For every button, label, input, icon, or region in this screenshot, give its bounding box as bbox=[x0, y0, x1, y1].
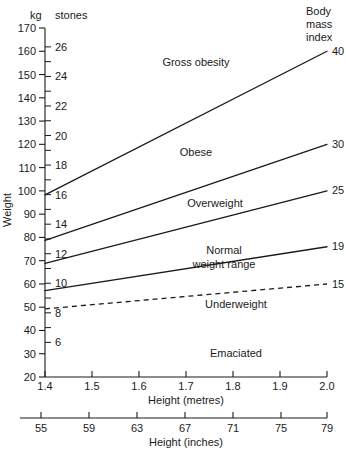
bmi-curve-15 bbox=[45, 284, 327, 309]
x-axis-inches-ticks bbox=[41, 412, 327, 418]
bmi-curve-30 bbox=[45, 144, 327, 240]
bmi-curve-40 bbox=[45, 51, 327, 195]
x-tick-label-inches: 75 bbox=[275, 422, 287, 434]
x-axis-metres-ticks bbox=[45, 371, 327, 377]
x-tick-label-inches: 71 bbox=[227, 422, 239, 434]
y-axis-stones-labels: 6 8 10 12 14 16 18 20 22 24 26 bbox=[55, 41, 67, 349]
bmi-end-label-15: 15 bbox=[332, 278, 344, 290]
stones-tick-label: 6 bbox=[55, 336, 61, 348]
y-tick-label: 40 bbox=[24, 324, 36, 336]
y-tick-label: 90 bbox=[24, 208, 36, 220]
x-tick-label-inches: 55 bbox=[35, 422, 47, 434]
x-tick-label-inches: 79 bbox=[321, 422, 333, 434]
y-tick-label: 120 bbox=[18, 138, 36, 150]
unit-label-kg: kg bbox=[30, 9, 42, 21]
y-tick-label: 110 bbox=[18, 162, 36, 174]
bmi-end-label-19: 19 bbox=[332, 240, 344, 252]
x-tick-label-metres: 1.7 bbox=[178, 380, 193, 392]
x-tick-label-inches: 63 bbox=[131, 422, 143, 434]
y-tick-label: 100 bbox=[18, 185, 36, 197]
bmi-axis-title-line-2: mass bbox=[306, 18, 333, 30]
stones-tick-label: 24 bbox=[55, 70, 67, 82]
y-tick-label: 160 bbox=[18, 45, 36, 57]
x-tick-label-metres: 1.9 bbox=[272, 380, 287, 392]
x-axis-title-inches: Height (inches) bbox=[149, 436, 223, 448]
x-axis-title-metres: Height (metres) bbox=[148, 394, 224, 406]
y-tick-label: 80 bbox=[24, 231, 36, 243]
stones-tick-label: 16 bbox=[55, 189, 67, 201]
y-tick-label: 30 bbox=[24, 348, 36, 360]
y-tick-label: 20 bbox=[24, 371, 36, 383]
region-label-emaciated: Emaciated bbox=[210, 347, 262, 359]
bmi-curves bbox=[45, 51, 327, 309]
bmi-end-label-40: 40 bbox=[332, 45, 344, 57]
stones-tick-label: 18 bbox=[55, 159, 67, 171]
x-axis-inches-labels: 55 59 63 67 71 75 79 bbox=[35, 422, 333, 434]
region-label-gross-obesity: Gross obesity bbox=[162, 56, 230, 68]
stones-tick-label: 14 bbox=[55, 218, 67, 230]
y-tick-label: 70 bbox=[24, 255, 36, 267]
y-axis-kg-ticks bbox=[39, 28, 45, 377]
x-axis-metres-labels: 1.4 1.5 1.6 1.7 1.8 1.9 2.0 bbox=[37, 380, 334, 392]
bmi-axis-title-line-1: Body bbox=[306, 5, 332, 17]
region-label-underweight: Underweight bbox=[205, 298, 267, 310]
bmi-axis-title-line-3: index bbox=[306, 31, 333, 43]
region-label-normal-line-2: weight range bbox=[192, 258, 256, 270]
stones-tick-label: 20 bbox=[55, 130, 67, 142]
y-tick-label: 130 bbox=[18, 115, 36, 127]
stones-tick-label: 22 bbox=[55, 100, 67, 112]
bmi-curve-19 bbox=[45, 247, 327, 291]
y-tick-label: 140 bbox=[18, 92, 36, 104]
region-labels: Gross obesity Obese Overweight Normal we… bbox=[162, 56, 267, 359]
y-tick-label: 50 bbox=[24, 301, 36, 313]
x-tick-label-inches: 59 bbox=[83, 422, 95, 434]
region-label-obese: Obese bbox=[180, 146, 212, 158]
stones-tick-label: 8 bbox=[55, 307, 61, 319]
unit-label-stones: stones bbox=[55, 9, 88, 21]
x-tick-label-inches: 67 bbox=[179, 422, 191, 434]
y-axis-title-weight: Weight bbox=[1, 193, 13, 227]
x-tick-label-metres: 1.5 bbox=[84, 380, 99, 392]
y-axis-kg-labels: 170 160 150 140 130 120 110 100 90 80 70… bbox=[18, 22, 36, 383]
bmi-chart: kg stones Body mass index Weight 170 160… bbox=[0, 0, 346, 450]
bmi-chart-svg: kg stones Body mass index Weight 170 160… bbox=[0, 0, 346, 450]
bmi-axis-title: Body mass index bbox=[306, 5, 333, 43]
bmi-end-label-30: 30 bbox=[332, 138, 344, 150]
bmi-end-labels: 40 30 25 19 15 bbox=[332, 45, 344, 290]
bmi-curve-25 bbox=[45, 191, 327, 263]
region-label-overweight: Overweight bbox=[187, 197, 243, 209]
x-tick-label-metres: 1.6 bbox=[131, 380, 146, 392]
x-tick-label-metres: 2.0 bbox=[319, 380, 334, 392]
region-label-normal-line-1: Normal bbox=[206, 244, 241, 256]
y-tick-label: 150 bbox=[18, 69, 36, 81]
x-tick-label-metres: 1.8 bbox=[225, 380, 240, 392]
x-tick-label-metres: 1.4 bbox=[37, 380, 52, 392]
y-tick-label: 170 bbox=[18, 22, 36, 34]
bmi-end-label-25: 25 bbox=[332, 184, 344, 196]
stones-tick-label: 26 bbox=[55, 41, 67, 53]
y-tick-label: 60 bbox=[24, 278, 36, 290]
